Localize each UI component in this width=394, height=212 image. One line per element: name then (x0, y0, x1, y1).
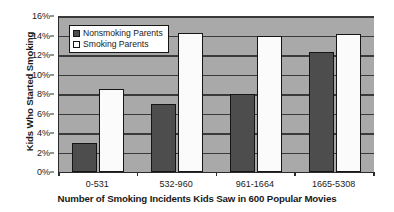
y-axis-tick-label: 14% (32, 31, 50, 41)
bar-group (295, 16, 374, 172)
bar (72, 143, 97, 172)
y-axis-tick-label: 16% (32, 11, 50, 21)
legend-item: Nonsmoking Parents (73, 28, 163, 39)
legend-item-label: Smoking Parents (83, 39, 148, 50)
bar (257, 36, 282, 172)
y-axis-tick-label: 6% (37, 109, 50, 119)
legend-swatch-icon (73, 41, 80, 48)
bar (230, 94, 255, 172)
bar (178, 33, 203, 172)
chart-legend: Nonsmoking ParentsSmoking Parents (69, 25, 169, 53)
y-axis-tick-mark (50, 35, 54, 36)
x-axis-tick-mark (137, 172, 139, 176)
legend-item: Smoking Parents (73, 39, 163, 50)
plot-area: Nonsmoking ParentsSmoking Parents (58, 16, 374, 173)
legend-swatch-icon (73, 30, 80, 37)
y-axis-tick-label: 8% (37, 89, 50, 99)
y-axis-tick-label: 2% (37, 148, 50, 158)
x-axis-title: Number of Smoking Incidents Kids Saw in … (0, 193, 394, 204)
legend-item-label: Nonsmoking Parents (83, 28, 163, 39)
y-axis-tick-label: 12% (32, 50, 50, 60)
y-axis-tick-mark (50, 152, 54, 153)
y-axis-tick-label: 10% (32, 70, 50, 80)
bar-group (217, 16, 296, 172)
bar (99, 89, 124, 172)
x-axis-tick-label: 532-960 (160, 179, 193, 189)
y-axis-tick-mark (50, 55, 54, 56)
bar (151, 104, 176, 172)
x-axis-tick-label: 961-1664 (236, 179, 274, 189)
x-axis-tick-mark (373, 172, 375, 176)
y-axis-tick-mark (50, 16, 54, 17)
y-axis-tick-label: 0% (37, 167, 50, 177)
bar (309, 52, 334, 172)
x-axis-tick-label: 1665-5308 (312, 179, 355, 189)
y-axis-tick-labels: 0%2%4%6%8%10%12%14%16% (20, 16, 54, 172)
y-axis-tick-mark (50, 74, 54, 75)
x-axis-tick-mark (216, 172, 218, 176)
y-axis-tick-label: 4% (37, 128, 50, 138)
bar (336, 34, 361, 172)
y-axis-tick-mark (50, 133, 54, 134)
y-axis-tick-mark (50, 113, 54, 114)
y-axis-tick-mark (50, 94, 54, 95)
x-axis-tick-label: 0-531 (86, 179, 109, 189)
x-axis-tick-mark (58, 172, 60, 176)
x-axis-tick-mark (294, 172, 296, 176)
y-axis-tick-mark (50, 172, 54, 173)
bar-chart: Kids Who Started Smoking 0%2%4%6%8%10%12… (0, 0, 394, 212)
